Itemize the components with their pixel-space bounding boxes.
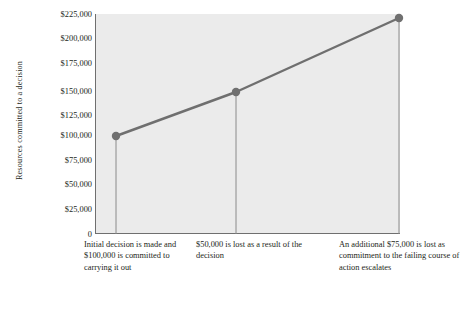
y-tick-label: $125,000 xyxy=(30,111,92,120)
plot-svg xyxy=(96,14,401,234)
y-tick-label: $175,000 xyxy=(30,59,92,68)
data-point-marker-0 xyxy=(112,132,120,140)
data-line xyxy=(116,18,399,136)
x-category-label-0: Initial decision is made and $100,000 is… xyxy=(84,239,184,273)
escalation-of-commitment-chart: Resources committed to a decision $225,0… xyxy=(0,0,466,316)
y-tick-label: $225,000 xyxy=(30,10,92,19)
plot-area xyxy=(95,14,400,234)
y-tick-label: $150,000 xyxy=(30,87,92,96)
data-point-marker-1 xyxy=(232,88,240,96)
x-axis-category-labels: Initial decision is made and $100,000 is… xyxy=(0,239,466,316)
y-tick-label: $100,000 xyxy=(30,131,92,140)
x-category-label-2: An additional $75,000 is lost as commitm… xyxy=(339,239,463,273)
data-point-marker-2 xyxy=(395,14,403,22)
y-tick-label: $50,000 xyxy=(30,180,92,189)
y-tick-label: 0 xyxy=(30,230,92,239)
y-tick-label: $75,000 xyxy=(30,156,92,165)
y-axis-title: Resources committed to a decision xyxy=(15,6,24,236)
x-category-label-1: $50,000 is lost as a result of the decis… xyxy=(196,239,306,262)
dropline-group xyxy=(116,18,399,234)
y-tick-label: $25,000 xyxy=(30,205,92,214)
y-tick-label: $200,000 xyxy=(30,34,92,43)
